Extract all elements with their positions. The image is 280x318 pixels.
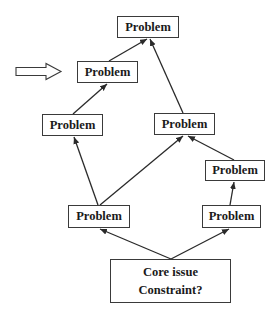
- problem-node-2: Problem: [77, 61, 138, 83]
- problem-node-3: Problem: [42, 114, 103, 136]
- problem-tree-diagram: Problem Problem Problem Problem Problem …: [0, 0, 280, 318]
- core-issue-node: Core issue Constraint?: [110, 259, 231, 303]
- pointer-arrow-icon: [16, 64, 61, 80]
- constraint-label: Constraint?: [139, 283, 203, 298]
- problem-node-4: Problem: [154, 113, 215, 135]
- edge-problem-2-to-problem-1: [109, 39, 147, 61]
- problem-node-6: Problem: [68, 205, 130, 228]
- edge-core-to-problem-6: [100, 229, 171, 259]
- problem-node-5: Problem: [205, 160, 265, 181]
- edge-problem-5-to-problem-4: [188, 136, 234, 160]
- edge-problem-6-to-problem-4: [100, 136, 183, 205]
- edge-problem-4-to-problem-1: [150, 39, 183, 113]
- edge-problem-6-to-problem-3: [74, 137, 98, 205]
- edge-problem-7-to-problem-5: [230, 182, 234, 205]
- problem-node-7: Problem: [202, 205, 261, 228]
- edge-problem-3-to-problem-2: [73, 84, 107, 114]
- problem-node-1: Problem: [117, 16, 179, 38]
- edge-core-to-problem-7: [171, 229, 229, 259]
- core-issue-label: Core issue: [143, 265, 198, 280]
